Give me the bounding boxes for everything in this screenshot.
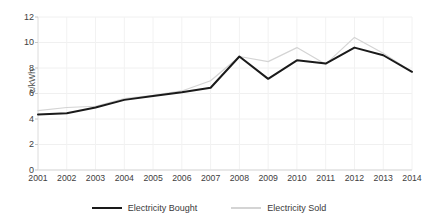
x-tick-label: 2003 <box>81 174 111 183</box>
x-tick-label: 2010 <box>282 174 312 183</box>
data-series-layer <box>38 37 412 114</box>
legend-swatch-electricity-bought <box>92 207 122 209</box>
legend-item-electricity-sold[interactable]: Electricity Sold <box>231 204 326 213</box>
x-tick-label: 2006 <box>167 174 197 183</box>
x-tick-label: 2013 <box>368 174 398 183</box>
legend-label-electricity-sold: Electricity Sold <box>267 204 326 213</box>
x-tick-label: 2005 <box>138 174 168 183</box>
legend-item-electricity-bought[interactable]: Electricity Bought <box>92 204 198 213</box>
legend-swatch-electricity-sold <box>231 207 261 209</box>
x-tick-label: 2001 <box>23 174 53 183</box>
x-tick-label: 2008 <box>224 174 254 183</box>
x-tick-label: 2012 <box>339 174 369 183</box>
x-tick-label: 2007 <box>196 174 226 183</box>
x-tick-label: 2014 <box>397 174 426 183</box>
gridlines <box>38 17 412 170</box>
x-axis-tick-labels: 2001200220032004200520062007200820092010… <box>38 174 412 188</box>
chart-legend: Electricity Bought Electricity Sold <box>0 198 418 218</box>
x-tick-label: 2004 <box>109 174 139 183</box>
x-tick-label: 2011 <box>311 174 341 183</box>
x-tick-label: 2009 <box>253 174 283 183</box>
series-line-electricity-bought <box>38 48 412 115</box>
x-tick-label: 2002 <box>52 174 82 183</box>
legend-label-electricity-bought: Electricity Bought <box>128 204 198 213</box>
